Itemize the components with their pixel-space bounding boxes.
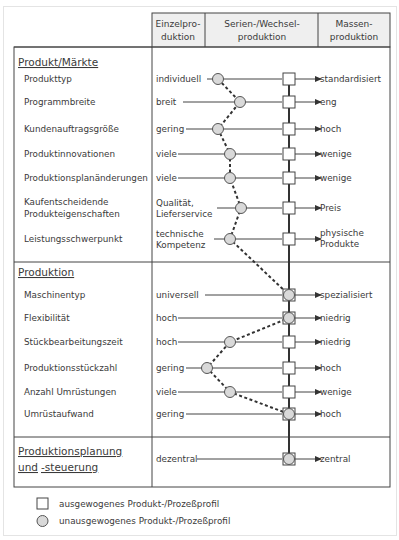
square-marker (283, 73, 295, 85)
left-value: gering (156, 409, 184, 419)
right-value: wenige (320, 149, 352, 159)
section-title-pps-2a: und (18, 461, 38, 473)
left-value: gering (156, 124, 184, 134)
legend-circle-icon (37, 516, 48, 527)
left-value: gering (156, 363, 184, 373)
left-value: viele (156, 387, 177, 397)
circle-marker (213, 74, 224, 85)
header-massen-1: Massen- (335, 19, 372, 29)
left-value: hoch (156, 313, 177, 323)
square-marker (283, 233, 295, 245)
row-label: Stückbearbeitungszeit (24, 337, 123, 347)
section-title-produkt-maerkte: Produkt/Märkte (18, 56, 98, 68)
circle-marker (225, 149, 236, 160)
right-value: niedrig (320, 337, 351, 347)
row-label: Maschinentyp (24, 290, 86, 300)
square-marker (283, 336, 295, 348)
row-label: Produktionsplanänderungen (24, 173, 148, 183)
circle-marker (236, 203, 247, 214)
left-value: technische (156, 229, 204, 239)
left-value: individuell (156, 74, 201, 84)
left-value: Kompetenz (156, 240, 206, 250)
profile-diagram: Einzelpro- duktion Serien-/Wechsel- prod… (0, 0, 399, 540)
circle-marker (213, 124, 224, 135)
square-marker (283, 148, 295, 160)
right-value: niedrig (320, 313, 351, 323)
right-value: hoch (320, 363, 341, 373)
circle-marker (225, 234, 236, 245)
right-value: eng (320, 97, 337, 107)
square-marker (283, 172, 295, 184)
circle-marker (225, 337, 236, 348)
right-value: standardisiert (320, 74, 382, 84)
right-value: hoch (320, 409, 341, 419)
legend-square-icon (37, 498, 48, 509)
row-label: Produkteigenschaften (24, 209, 120, 219)
section-title-pps-2b: -steuerung (41, 461, 98, 473)
legend-label-unbalanced: unausgewogenes Produkt-/Prozeßprofil (59, 516, 230, 526)
circle-marker (225, 173, 236, 184)
row-label: Programmbreite (24, 97, 95, 107)
left-value: viele (156, 149, 177, 159)
unbalanced-profile-line (207, 79, 289, 459)
legend-label-balanced: ausgewogenes Produkt-/Prozeßprofil (59, 499, 219, 509)
square-marker (283, 202, 295, 214)
right-value: wenige (320, 173, 352, 183)
square-marker (283, 96, 295, 108)
circle-marker (284, 454, 295, 465)
row-label: Flexibilität (24, 313, 70, 323)
left-value: universell (156, 290, 199, 300)
row-label: Produkttyp (24, 74, 72, 84)
header-einzel-1: Einzelpro- (156, 19, 201, 29)
section-title-produktion: Produktion (18, 266, 74, 278)
left-value: Lieferservice (156, 209, 212, 219)
right-value: physische (320, 228, 364, 238)
circle-marker (284, 313, 295, 324)
circle-marker (235, 97, 246, 108)
circle-marker (202, 363, 213, 374)
right-value: zentral (320, 454, 351, 464)
left-value: Qualität, (156, 198, 194, 208)
row-label: Kundenauftragsgröße (24, 124, 119, 134)
left-value: viele (156, 173, 177, 183)
header-serien-1: Serien-/Wechsel- (224, 19, 300, 29)
right-value: spezialisiert (320, 290, 373, 300)
left-value: dezentral (156, 454, 198, 464)
row-label: Umrüstaufwand (24, 409, 94, 419)
square-marker (283, 123, 295, 135)
row-label: Produktinnovationen (24, 149, 115, 159)
row-label: Anzahl Umrüstungen (24, 387, 116, 397)
row-label: Produktionsstückzahl (24, 363, 117, 373)
right-value: Preis (320, 203, 341, 213)
right-value: wenige (320, 387, 352, 397)
left-value: breit (156, 97, 177, 107)
circle-marker (284, 409, 295, 420)
header-einzel-2: duktion (161, 32, 195, 42)
square-marker (283, 386, 295, 398)
row-label: Leistungsschwerpunkt (24, 234, 123, 244)
section-title-pps-1: Produktionsplanung (18, 445, 122, 457)
header-massen-2: produktion (330, 32, 379, 42)
right-value: Produkte (320, 239, 359, 249)
left-value: hoch (156, 337, 177, 347)
row-label: Kaufentscheidende (24, 197, 109, 207)
circle-marker (284, 290, 295, 301)
square-marker (283, 362, 295, 374)
header-serien-2: produktion (238, 32, 287, 42)
circle-marker (225, 387, 236, 398)
right-value: hoch (320, 124, 341, 134)
